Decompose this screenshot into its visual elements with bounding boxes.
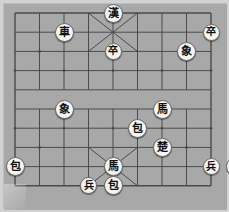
piece-label: 馬 [108, 161, 119, 172]
piece-chariot-top-left[interactable]: 車 [55, 23, 74, 42]
star-point-5 [161, 69, 164, 72]
star-point-10 [161, 127, 164, 130]
piece-cannon-left-edge[interactable]: 包 [6, 157, 25, 176]
piece-label: 象 [59, 104, 70, 115]
piece-label: 包 [108, 180, 119, 191]
piece-label: 包 [10, 161, 21, 172]
piece-elephant-left[interactable]: 象 [55, 100, 74, 119]
star-point-6 [210, 69, 213, 72]
piece-label: 楚 [157, 142, 168, 153]
piece-soldier-top-right[interactable]: 卒 [203, 24, 220, 41]
star-point-12 [38, 146, 41, 149]
piece-label: 包 [132, 123, 143, 134]
piece-label: 象 [181, 46, 192, 57]
piece-cannon-center[interactable]: 包 [128, 119, 147, 138]
piece-horse-bottom[interactable]: 馬 [104, 157, 123, 176]
star-point-0 [38, 50, 41, 53]
star-point-7 [14, 127, 17, 130]
star-point-4 [112, 69, 115, 72]
piece-label: 兵 [84, 181, 94, 191]
piece-cannon-bottom[interactable]: 包 [104, 176, 123, 195]
star-point-13 [185, 146, 188, 149]
piece-general-chu[interactable]: 楚 [153, 138, 172, 157]
piece-label: 漢 [108, 8, 119, 19]
star-point-9 [112, 127, 115, 130]
piece-horse-right[interactable]: 馬 [153, 100, 172, 119]
piece-label: 車 [59, 27, 70, 38]
star-point-11 [210, 127, 213, 130]
star-point-2 [14, 69, 17, 72]
star-point-3 [63, 69, 66, 72]
piece-elephant-right[interactable]: 象 [177, 42, 196, 61]
piece-label: 卒 [108, 46, 118, 56]
board-frame: 漢車卒卒象象馬包楚包馬包兵兵車 [3, 3, 226, 209]
piece-label: 卒 [206, 27, 216, 37]
piece-general-han[interactable]: 漢 [104, 4, 123, 23]
board-surface[interactable]: 漢車卒卒象象馬包楚包馬包兵兵車 [4, 4, 227, 210]
xiangqi-app: 漢車卒卒象象馬包楚包馬包兵兵車 [0, 0, 229, 212]
star-point-8 [63, 127, 66, 130]
piece-label: 馬 [157, 104, 168, 115]
piece-soldier-bottom-right[interactable]: 兵 [203, 158, 220, 175]
piece-soldier-center-top[interactable]: 卒 [105, 43, 122, 60]
piece-label: 兵 [206, 162, 216, 172]
